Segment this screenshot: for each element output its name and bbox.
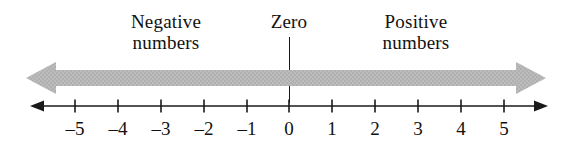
tick-label: –3 [141,117,181,141]
gray-double-arrow-band [26,58,546,98]
tick-label: 3 [398,117,438,141]
number-line-figure: Negative numbers Zero Positive numbers [0,0,572,149]
tick-label: –5 [55,117,95,141]
label-zero: Zero [244,11,334,32]
tick-label-row: –5 –4 –3 –2 –1 0 1 2 3 4 5 [0,117,572,145]
tick-label: 1 [312,117,352,141]
label-positive-numbers: Positive numbers [346,11,486,53]
tick-label: –2 [184,117,224,141]
tick-label: 4 [441,117,481,141]
tick-label: 0 [269,117,309,141]
number-line-axis [30,96,548,116]
label-negative-numbers: Negative numbers [96,11,236,53]
tick-label: 5 [484,117,524,141]
tick-label: –1 [227,117,267,141]
tick-label: –4 [98,117,138,141]
tick-label: 2 [355,117,395,141]
